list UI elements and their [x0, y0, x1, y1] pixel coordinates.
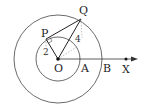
label-o: O — [54, 62, 63, 75]
dashed-o-diag — [58, 46, 78, 59]
label-b: B — [103, 62, 111, 75]
geometry-diagram: Q P O A B X 2 4 — [0, 0, 144, 111]
arrow-head-icon — [131, 57, 138, 62]
label-p: P — [41, 27, 49, 40]
label-x: X — [122, 63, 130, 76]
point-o — [56, 57, 60, 61]
label-a: A — [80, 62, 90, 75]
point-x — [125, 58, 128, 61]
length-oq: 4 — [75, 34, 81, 44]
label-q: Q — [79, 4, 88, 17]
length-op: 2 — [43, 47, 49, 57]
